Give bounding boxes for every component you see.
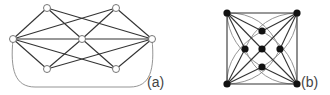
graph-edge bbox=[262, 67, 297, 84]
graph-edge bbox=[280, 49, 297, 84]
graph-edge bbox=[116, 39, 152, 69]
graph-node bbox=[258, 27, 265, 34]
graph-node bbox=[44, 5, 51, 12]
panel-label-a: (a) bbox=[147, 74, 164, 90]
graph-node bbox=[293, 9, 300, 16]
graph-node bbox=[10, 36, 17, 43]
graph-node bbox=[223, 80, 230, 87]
graph-node bbox=[113, 5, 120, 12]
graph-edge bbox=[116, 8, 152, 39]
curved-edge bbox=[12, 39, 153, 87]
graph-figure bbox=[0, 0, 330, 95]
graph-edge bbox=[227, 13, 245, 49]
graph-node bbox=[293, 80, 300, 87]
graph-edge bbox=[227, 13, 262, 31]
panel-label-b: (b) bbox=[301, 74, 318, 90]
graph-node bbox=[223, 9, 230, 16]
graph-node bbox=[258, 63, 265, 70]
curved-edge bbox=[227, 49, 280, 84]
graph-node bbox=[149, 36, 156, 43]
graph-node bbox=[79, 36, 86, 43]
graph-node bbox=[276, 45, 283, 52]
graph-node bbox=[258, 45, 265, 52]
curved-edge bbox=[245, 49, 297, 84]
graph-node bbox=[113, 66, 120, 73]
graph-node bbox=[44, 66, 51, 73]
graph-edge bbox=[227, 49, 262, 84]
graph-b bbox=[223, 9, 300, 87]
graph-node bbox=[241, 45, 248, 52]
graph-a bbox=[10, 5, 156, 88]
graph-edge bbox=[262, 13, 297, 49]
curved-edge bbox=[227, 13, 262, 67]
